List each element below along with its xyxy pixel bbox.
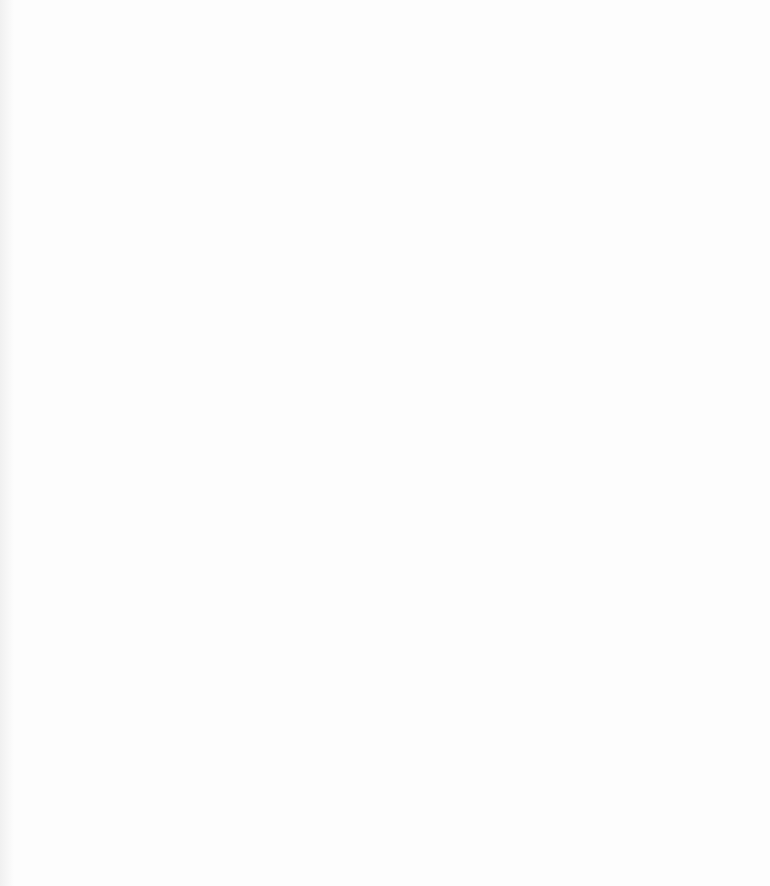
pattern-artwork <box>0 0 770 886</box>
